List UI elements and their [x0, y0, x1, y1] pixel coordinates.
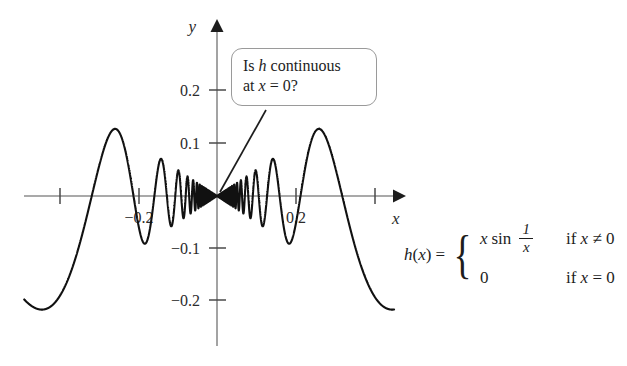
case1-cond-var: x	[581, 229, 589, 248]
callout-line2-post: = 0?	[266, 77, 298, 94]
callout-box: Is h continuous at x = 0?	[231, 48, 377, 106]
formula-case-2: 0 if x = 0	[480, 268, 615, 288]
function-curve	[24, 129, 394, 310]
case2-expression: 0	[480, 268, 566, 288]
case1-fraction: 1 x	[519, 222, 533, 255]
x-axis-label: x	[391, 209, 400, 228]
formula-close-paren: )	[426, 245, 432, 264]
callout-line2: at x = 0?	[243, 77, 298, 94]
case2-if: if	[566, 268, 581, 287]
case2-condition: if x = 0	[566, 268, 615, 288]
case1-condition: if x ≠ 0	[566, 229, 615, 249]
formula-cases: xsin 1 x if x ≠ 0 0 if x = 0	[480, 222, 615, 288]
formula-case-1: xsin 1 x if x ≠ 0	[480, 222, 615, 255]
callout-line1-pre: Is	[243, 57, 259, 74]
x-axis-arrowhead	[393, 190, 406, 203]
case1-denominator: x	[520, 239, 533, 255]
y-axis-arrowhead	[211, 19, 224, 32]
y-tick-label-3: −0.2	[171, 292, 200, 309]
figure-canvas: 0.2 0.1 −0.1 −0.2 −0.2 0.2 x y Is h cont…	[0, 0, 627, 366]
callout-leader-line	[220, 110, 266, 192]
y-axis-label: y	[186, 17, 196, 36]
case1-numerator: 1	[520, 222, 534, 238]
callout-line1: Is h continuous	[243, 57, 341, 74]
callout-line1-var: h	[259, 57, 267, 74]
formula-brace: {	[453, 235, 471, 276]
y-tick-label-1: 0.1	[180, 135, 200, 152]
callout-line2-var: x	[259, 77, 266, 94]
case2-value: 0	[480, 268, 489, 288]
case2-cond-var: x	[581, 268, 589, 287]
case1-expression: xsin 1 x	[480, 222, 566, 255]
case1-var: x	[480, 229, 488, 249]
case1-cond-rel: ≠ 0	[588, 229, 614, 248]
formula-lhs: h(x)	[404, 245, 431, 265]
y-tick-label-0: 0.2	[180, 82, 200, 99]
piecewise-definition: h(x) = { xsin 1 x if x ≠ 0 0 if x = 0	[404, 222, 615, 288]
formula-fn-name: h	[404, 245, 413, 264]
case2-cond-rel: = 0	[588, 268, 615, 287]
formula-arg: x	[418, 245, 426, 264]
y-tick-label-2: −0.1	[171, 240, 200, 257]
callout-line1-post: continuous	[267, 57, 341, 74]
case1-if: if	[566, 229, 581, 248]
case1-sin: sin	[492, 229, 512, 249]
callout-line2-pre: at	[243, 77, 259, 94]
formula-equals: =	[435, 245, 445, 265]
